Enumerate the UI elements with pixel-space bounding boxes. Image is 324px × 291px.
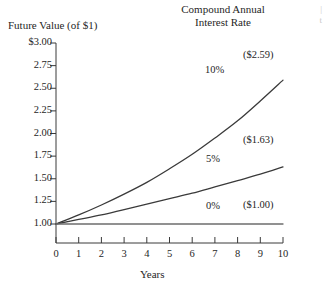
x-tick-label-0: 0	[44, 248, 68, 259]
y-tick-label-8: $3.00	[28, 36, 52, 47]
curve-5-percent	[56, 167, 283, 224]
end-value-label-10-percent: ($2.59)	[243, 49, 274, 60]
x-tick-label-7: 7	[203, 248, 227, 259]
x-tick-label-6: 6	[180, 248, 204, 259]
page-edge-bleed-mark-1: |	[320, 4, 322, 14]
x-tick-label-5: 5	[158, 248, 182, 259]
chart-title-line-2: Interest Rate	[163, 16, 283, 29]
end-value-label-0-percent: ($1.00)	[243, 199, 274, 210]
series-label-5-percent: 5%	[206, 153, 220, 164]
y-tick-label-3: 1.75	[34, 149, 52, 160]
x-tick-label-3: 3	[112, 248, 136, 259]
y-tick-label-4: 2.00	[34, 127, 52, 138]
y-tick-label-5: 2.25	[34, 104, 52, 115]
chart-title: Compound Annual Interest Rate	[163, 3, 283, 28]
chart-title-line-1: Compound Annual	[163, 3, 283, 16]
x-tick-label-1: 1	[67, 248, 91, 259]
compound-interest-chart: Compound Annual Interest Rate Future Val…	[0, 0, 324, 291]
x-tick-label-2: 2	[89, 248, 113, 259]
y-tick-label-1: 1.25	[34, 194, 52, 205]
x-axis-title: Years	[140, 268, 165, 281]
y-tick-label-6: 2.50	[34, 81, 52, 92]
series-label-10-percent: 10%	[205, 64, 224, 75]
y-tick-label-2: 1.50	[34, 172, 52, 183]
x-tick-label-10: 10	[271, 248, 295, 259]
page-edge-bleed-mark-2: t	[319, 15, 322, 25]
y-tick-label-0: 1.00	[34, 217, 52, 228]
x-tick-label-8: 8	[226, 248, 250, 259]
series-label-0-percent: 0%	[206, 200, 220, 211]
y-tick-label-7: 2.75	[34, 59, 52, 70]
x-tick-label-9: 9	[248, 248, 272, 259]
x-axis-ticks	[56, 237, 283, 243]
end-value-label-5-percent: ($1.63)	[243, 134, 274, 145]
x-tick-label-4: 4	[135, 248, 159, 259]
y-axis-title: Future Value (of $1)	[8, 19, 97, 32]
